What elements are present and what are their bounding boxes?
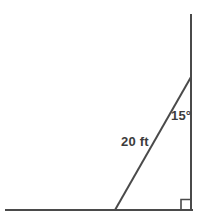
hypotenuse-length-label: 20 ft: [121, 134, 149, 149]
vertex-angle-label: 15°: [171, 108, 191, 123]
right-angle-marker-icon: [181, 200, 191, 211]
geometry-figure: 20 ft 15°: [0, 0, 206, 222]
